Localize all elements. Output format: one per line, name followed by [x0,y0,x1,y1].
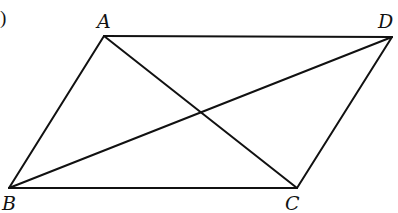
side-ba [9,36,104,188]
paren-fragment: ) [0,7,6,29]
diagonal-bd [9,37,392,188]
parallelogram-diagram: ) A D B C [0,0,398,213]
vertex-label-d: D [377,10,393,32]
vertex-label-a: A [95,10,111,32]
vertex-label-b: B [1,192,16,213]
side-dc [297,37,392,188]
vertex-label-c: C [285,192,300,213]
side-ad [104,36,392,37]
